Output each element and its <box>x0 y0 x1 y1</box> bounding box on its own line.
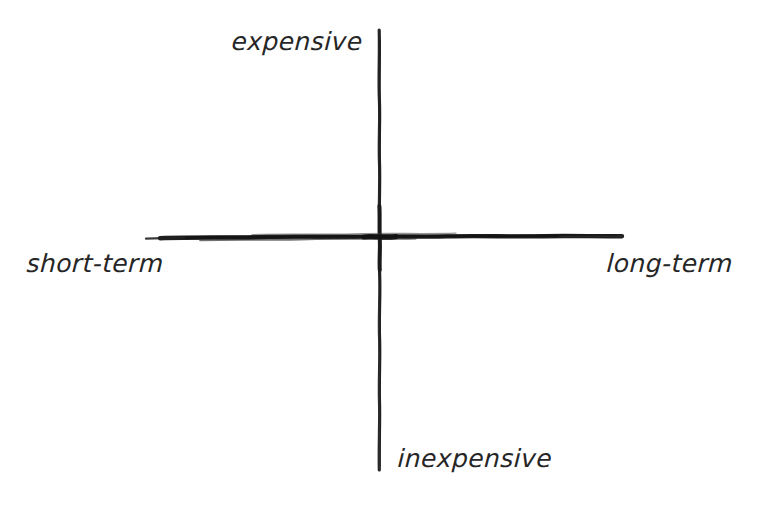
axis-label-expensive: expensive <box>231 29 363 54</box>
axis-label-inexpensive: inexpensive <box>397 446 553 471</box>
vertical-axis <box>379 30 381 470</box>
axis-label-short-term: short-term <box>26 251 164 276</box>
axis-label-long-term: long-term <box>606 251 734 276</box>
quadrant-diagram-canvas: expensive short-term long-term inexpensi… <box>0 0 759 506</box>
horizontal-axis <box>146 233 622 240</box>
